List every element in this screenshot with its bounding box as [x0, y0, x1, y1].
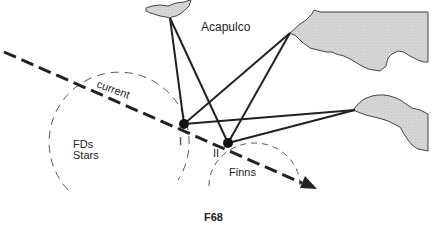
- bearing-line-ne-II: [228, 33, 290, 143]
- label-position-one: I: [179, 135, 182, 147]
- label-finns: Finns: [229, 166, 256, 178]
- label-acapulco: Acapulco: [201, 20, 251, 34]
- label-stars: Stars: [73, 149, 99, 161]
- figure-caption: F68: [204, 211, 223, 223]
- navigation-diagram: Acapulco current FDs Stars Finns I II F6…: [0, 0, 434, 225]
- land-northeast-coast: [290, 10, 428, 71]
- fix-position-one: [179, 119, 189, 129]
- label-position-two: II: [213, 147, 219, 159]
- land-acapulco: [146, 0, 191, 18]
- fix-position-two: [223, 138, 233, 148]
- label-current: current: [95, 78, 131, 101]
- land-east-headland: [353, 95, 428, 151]
- bearing-line-ne-I: [184, 33, 290, 124]
- current-arrow-icon: [300, 176, 317, 189]
